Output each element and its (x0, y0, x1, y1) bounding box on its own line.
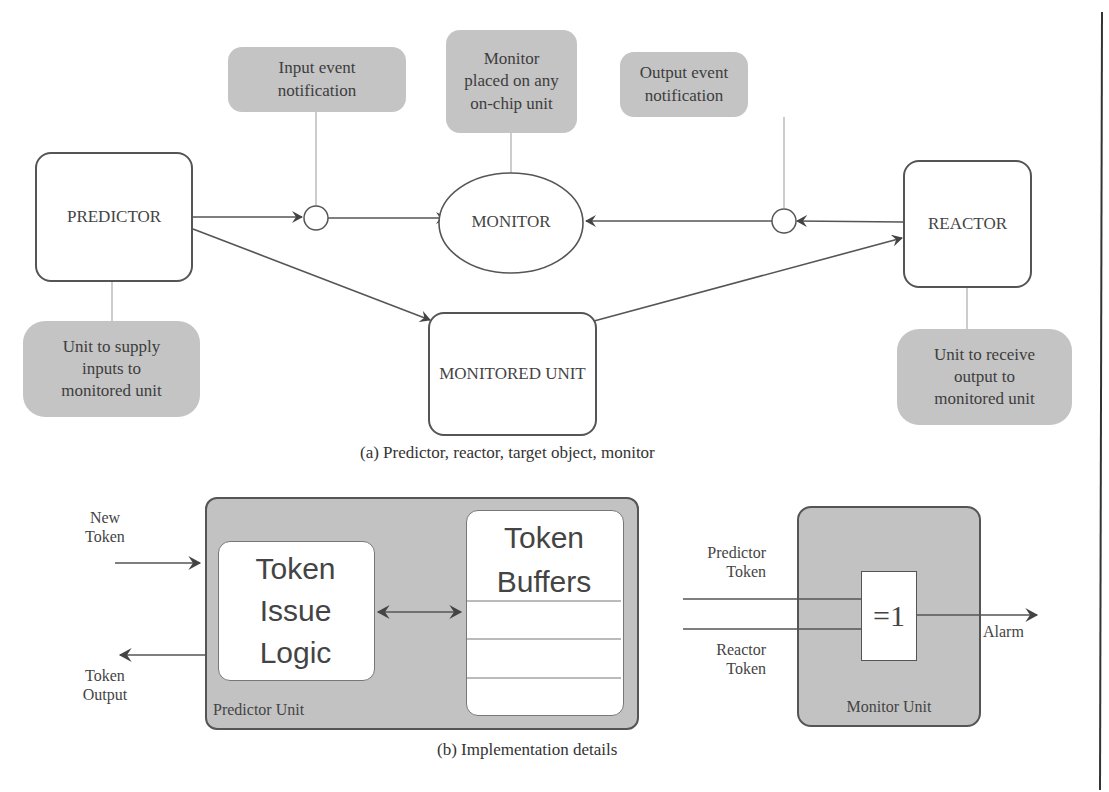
callout-line: notification (640, 85, 728, 107)
caption-a: (a) Predictor, reactor, target object, m… (360, 443, 655, 463)
label-line: Buffers (466, 560, 622, 604)
label-line: Token (680, 659, 766, 678)
monitored-unit-node: MONITORED UNIT (428, 312, 597, 436)
monitor-label: MONITOR (439, 212, 583, 232)
input-event-node (304, 206, 328, 230)
new-token-label: New Token (72, 508, 138, 546)
predictor-token-label: Predictor Token (680, 543, 766, 581)
xor-gate-label: =1 (873, 599, 905, 633)
callout-line: output to (934, 366, 1035, 388)
label-line: Token (680, 562, 766, 581)
callout-line: monitored unit (61, 380, 162, 402)
callout-line: Unit to receive (934, 344, 1035, 366)
reactor-label: REACTOR (928, 214, 1007, 234)
label-line: Token (68, 666, 142, 685)
label-line: Token (72, 527, 138, 546)
monitored-unit-label: MONITORED UNIT (439, 364, 586, 384)
callout-line: notification (278, 80, 356, 102)
token-buffers-label: Token Buffers (466, 516, 622, 604)
label-line: Reactor (680, 640, 766, 659)
callout-line: Monitor (464, 48, 558, 70)
monitor-unit-label: Monitor Unit (797, 697, 981, 716)
callout-line: Input event (278, 57, 356, 79)
callout-line: placed on any (464, 70, 558, 92)
callout-line: Output event (640, 62, 728, 84)
output-event-node (772, 209, 796, 233)
callout-line: Unit to supply (61, 336, 162, 358)
label-line: Token (218, 548, 373, 590)
callout-input-event: Input eventnotification (228, 47, 406, 112)
predictor-label: PREDICTOR (67, 207, 161, 227)
callout-supply-unit: Unit to supplyinputs tomonitored unit (23, 321, 200, 417)
predictor-unit-label: Predictor Unit (213, 700, 304, 719)
label-line: Token (466, 516, 622, 560)
callout-line: monitored unit (934, 388, 1035, 410)
reactor-node: REACTOR (903, 160, 1032, 288)
xor-gate: =1 (861, 571, 917, 661)
callout-line: inputs to (61, 358, 162, 380)
callout-monitor-placed: Monitorplaced on anyon-chip unit (446, 30, 577, 133)
predictor-node: PREDICTOR (35, 152, 193, 282)
token-output-label: Token Output (68, 666, 142, 704)
alarm-label: Alarm (983, 622, 1024, 641)
caption-b: (b) Implementation details (437, 740, 617, 760)
callout-line: on-chip unit (464, 93, 558, 115)
reactor-token-label: Reactor Token (680, 640, 766, 678)
label-line: Logic (218, 632, 373, 674)
label-line: Output (68, 685, 142, 704)
callout-output-event: Output eventnotification (620, 52, 748, 117)
callout-receive-unit: Unit to receiveoutput tomonitored unit (897, 329, 1072, 425)
token-issue-logic-label: Token Issue Logic (218, 548, 373, 674)
label-line: Issue (218, 590, 373, 632)
label-line: New (72, 508, 138, 527)
label-line: Predictor (680, 543, 766, 562)
